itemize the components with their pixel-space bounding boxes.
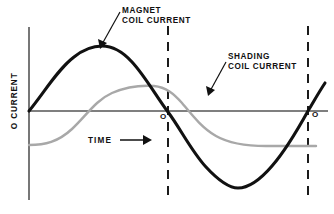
- shading-coil-current-label: SHADING COIL CURRENT: [228, 52, 297, 71]
- x-axis-label: TIME: [88, 136, 112, 146]
- waveform-figure: MAGNET COIL CURRENT SHADING COIL CURRENT…: [0, 0, 334, 214]
- zero-marker-right: O: [312, 110, 318, 119]
- shading-label-line1: SHADING: [228, 52, 297, 62]
- magnet-coil-current-label: MAGNET COIL CURRENT: [122, 6, 191, 25]
- zero-marker-mid: O: [160, 112, 166, 121]
- y-axis-label: O CURRENT: [10, 68, 20, 134]
- magnet-label-line1: MAGNET: [122, 6, 191, 16]
- waveform-plot: [0, 0, 334, 214]
- shading-label-line2: COIL CURRENT: [228, 62, 297, 72]
- shading-callout-arrowhead: [206, 86, 215, 96]
- magnet-label-line2: COIL CURRENT: [122, 16, 191, 26]
- arrow-right-icon: [143, 135, 152, 145]
- magnet-callout-leader: [101, 12, 120, 46]
- shading-callout-leader: [209, 62, 226, 93]
